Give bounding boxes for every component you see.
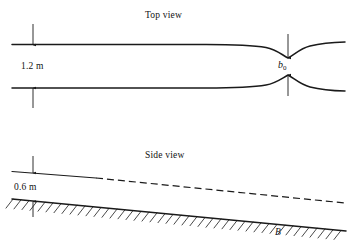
throat-width-label: b0 xyxy=(278,60,287,72)
water-surface-dashed xyxy=(96,178,345,203)
lower-bank-line xyxy=(12,75,345,91)
bed-hatching xyxy=(6,199,341,239)
side-view-group xyxy=(6,156,346,240)
top-view-group xyxy=(12,24,345,108)
water-surface-solid xyxy=(12,172,96,179)
channel-constriction-figure: Top view 1.2 m b0 Side view 0.6 m B xyxy=(0,0,352,248)
throat-subscript: 0 xyxy=(283,64,287,72)
point-b-label: B xyxy=(275,228,281,238)
depth-dimension-label: 0.6 m xyxy=(14,183,37,193)
top-view-title: Top view xyxy=(145,11,182,21)
channel-bed-line xyxy=(12,199,346,231)
side-view-title: Side view xyxy=(145,151,185,161)
upper-bank-line xyxy=(12,42,345,58)
figure-vector-canvas xyxy=(0,0,352,248)
width-dimension-label: 1.2 m xyxy=(21,62,44,72)
